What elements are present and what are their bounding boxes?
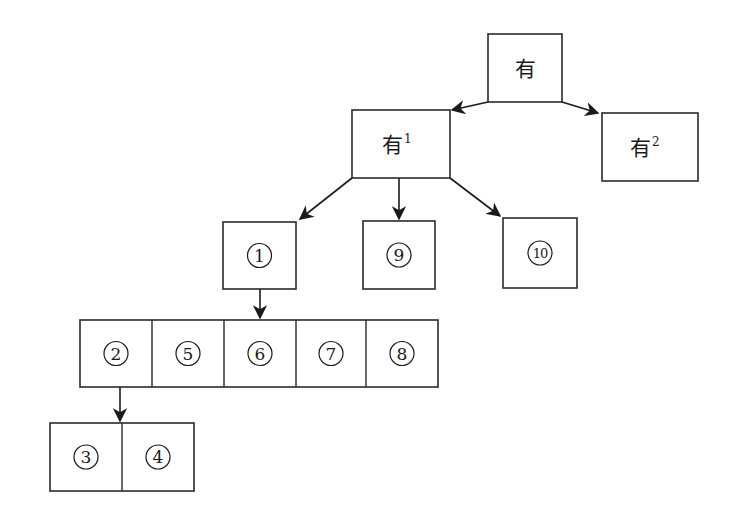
edge-you1-n1: [300, 178, 352, 219]
cell-n3-label: 3: [81, 447, 92, 467]
row-level3: 2 5 6 7 8: [80, 320, 438, 387]
node-n9-label: 9: [394, 245, 405, 265]
edge-you1-n10: [450, 178, 500, 216]
edge-root-you2: [562, 102, 598, 113]
node-n1-label: 1: [254, 246, 265, 266]
cell-n8-label: 8: [397, 344, 408, 364]
cell-n7-label: 7: [326, 344, 337, 364]
node-you1-label: 有: [382, 133, 403, 157]
node-root-label: 有: [515, 57, 536, 81]
node-n10-label: 10: [533, 246, 548, 261]
cell-n4-label: 4: [153, 447, 164, 467]
cell-n2-label: 2: [111, 344, 122, 364]
cell-n5-label: 5: [183, 344, 194, 364]
node-you2-sup: 2: [652, 135, 660, 149]
node-you1: 有 1: [352, 110, 450, 178]
cell-n6-label: 6: [255, 344, 266, 364]
tree-diagram: 有 有 1 有 2 1 9 10 2: [0, 0, 733, 522]
node-you2: 有 2: [602, 113, 698, 181]
node-you1-sup: 1: [404, 132, 412, 146]
node-root: 有: [488, 34, 562, 102]
row-level4: 3 4: [50, 423, 194, 491]
diagram-canvas: 有 有 1 有 2 1 9 10 2: [0, 0, 733, 522]
node-n1: 1: [223, 222, 296, 289]
node-you2-label: 有: [630, 136, 651, 160]
node-n10: 10: [503, 218, 577, 288]
edge-root-you1: [452, 102, 488, 110]
node-n9: 9: [363, 221, 435, 289]
